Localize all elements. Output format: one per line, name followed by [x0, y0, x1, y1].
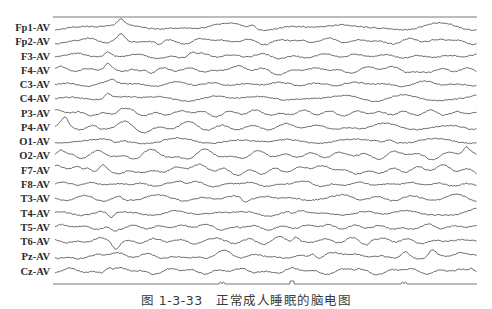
channel-label: F7-AV [21, 165, 50, 176]
channel-label: C3-AV [20, 79, 51, 90]
channel-traces [55, 19, 477, 275]
channel-label: Fp2-AV [15, 36, 50, 47]
eeg-trace [55, 93, 477, 102]
eeg-trace [55, 34, 477, 45]
eeg-trace [55, 237, 477, 250]
eeg-trace [55, 194, 477, 202]
channel-label: O1-AV [19, 136, 50, 147]
eeg-trace [55, 63, 477, 75]
channel-label: Cz-AV [20, 266, 50, 277]
channel-labels: Fp1-AVFp2-AVF3-AVF4-AVC3-AVC4-AVP3-AVP4-… [15, 22, 50, 277]
channel-label: Fp1-AV [15, 22, 50, 33]
eeg-trace [55, 224, 477, 232]
channel-label: T4-AV [20, 208, 50, 219]
channel-label: O2-AV [19, 150, 50, 161]
eeg-trace [55, 19, 477, 31]
eeg-trace [55, 138, 477, 145]
eeg-trace [55, 164, 477, 176]
figure-caption: 图 1-3-33 正常成人睡眠的脑电图 [0, 290, 492, 309]
eeg-trace [55, 147, 477, 160]
channel-label: C4-AV [20, 93, 51, 104]
channel-label: P4-AV [21, 122, 50, 133]
channel-label: F3-AV [21, 51, 50, 62]
eeg-trace [55, 208, 477, 218]
channel-label: F4-AV [21, 65, 50, 76]
eeg-trace [55, 181, 477, 187]
eeg-trace [55, 108, 477, 117]
eeg-trace [55, 117, 477, 133]
time-marker-line [53, 281, 477, 284]
eeg-trace [55, 79, 477, 87]
channel-label: T5-AV [20, 222, 50, 233]
eeg-trace [55, 52, 477, 59]
eeg-trace [55, 250, 477, 259]
eeg-trace [55, 268, 477, 276]
channel-label: T3-AV [20, 193, 50, 204]
channel-label: F8-AV [21, 179, 50, 190]
channel-label: Pz-AV [22, 251, 51, 262]
channel-label: T6-AV [20, 236, 50, 247]
channel-label: P3-AV [21, 108, 50, 119]
